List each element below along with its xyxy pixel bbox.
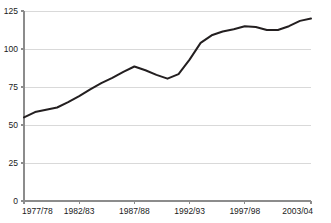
y-tick-label: 125	[4, 6, 18, 16]
y-tick-labels: 0255075100125	[4, 6, 18, 206]
line-chart: 0255075100125 1977/781982/831987/881992/…	[0, 0, 331, 223]
data-line-1	[24, 19, 311, 118]
x-tick-labels: 1977/781982/831987/881992/931997/982003/…	[22, 206, 313, 216]
x-tick-label: 1997/98	[229, 206, 260, 216]
x-tick-label: 1982/83	[64, 206, 95, 216]
y-tick-label: 100	[4, 44, 18, 54]
y-tick-label: 25	[9, 158, 19, 168]
y-tick-label: 0	[13, 196, 18, 206]
x-tick-label: 2003/04	[282, 206, 313, 216]
x-tick-label: 1977/78	[22, 206, 53, 216]
x-tick-label: 1987/88	[119, 206, 150, 216]
y-tick-label: 75	[9, 82, 19, 92]
gridlines	[24, 11, 311, 163]
y-tick-label: 50	[9, 120, 19, 130]
x-tick-label: 1992/93	[174, 206, 205, 216]
data-series-group	[24, 19, 311, 118]
axes	[24, 11, 311, 201]
chart-canvas: 0255075100125 1977/781982/831987/881992/…	[0, 0, 331, 223]
